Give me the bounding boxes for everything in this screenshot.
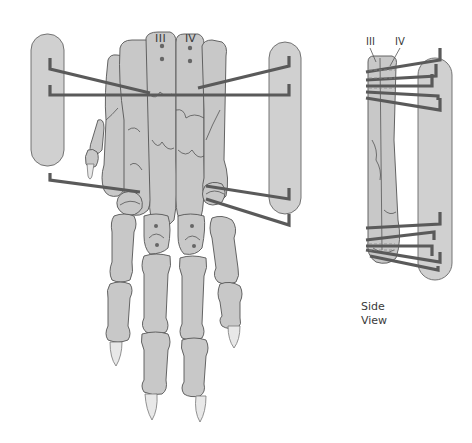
label-side-view-line2: View (361, 314, 387, 328)
label-side-bone-iv: IV (395, 36, 405, 48)
metacarpal-iii (117, 32, 177, 226)
claw-digit-iii (145, 394, 157, 420)
digit-iv-phalanges (178, 214, 208, 422)
label-side-view-line1: Side (361, 300, 387, 314)
metacarpal-v (202, 40, 228, 205)
claw-digit-v (228, 326, 240, 348)
digit-iii-phalanges (141, 214, 170, 420)
dewclaw (87, 164, 94, 179)
fixator-diagram: .bone { fill: #c8c8c8; stroke: #555; str… (0, 0, 472, 443)
claw-digit-ii (110, 342, 122, 366)
digit-v-phalanges (210, 216, 242, 348)
label-bone-iii: III (155, 33, 166, 45)
left-connecting-bar (31, 34, 64, 166)
digit-ii-phalanges (106, 214, 136, 366)
label-bone-iv: IV (185, 33, 196, 45)
diagram-canvas: .bone { fill: #c8c8c8; stroke: #555; str… (0, 0, 472, 443)
label-side-view: Side View (361, 300, 387, 328)
label-side-bone-iii: III (366, 36, 375, 48)
metacarpal-iv (176, 34, 205, 227)
claw-digit-iv (196, 396, 207, 422)
